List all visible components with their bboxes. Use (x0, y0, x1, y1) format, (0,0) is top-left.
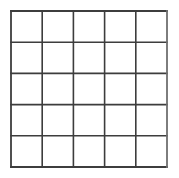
grid-cell (73, 73, 104, 104)
grid-cell (73, 136, 104, 167)
grid-cell (136, 11, 167, 42)
grid-cell (105, 73, 136, 104)
grid-cell (11, 136, 42, 167)
grid-cell (105, 42, 136, 73)
grid-cell (105, 136, 136, 167)
grid-cell (136, 105, 167, 136)
grid-cell (73, 11, 104, 42)
grid-cell (136, 136, 167, 167)
grid-cell (136, 42, 167, 73)
grid-cell (73, 42, 104, 73)
grid-cell (136, 73, 167, 104)
grid-cell (42, 105, 73, 136)
grid-cell (42, 73, 73, 104)
grid-cell (42, 136, 73, 167)
grid-cell (105, 105, 136, 136)
grid-cell (42, 42, 73, 73)
grid-cell (11, 73, 42, 104)
grid-cell (105, 11, 136, 42)
grid-cell (42, 11, 73, 42)
grid-cell (11, 11, 42, 42)
grid-cell (11, 42, 42, 73)
grid-cell (73, 105, 104, 136)
image-canvas (0, 0, 179, 178)
grid-svg (0, 0, 179, 178)
grid-cells-group (11, 11, 167, 167)
grid-cell (11, 105, 42, 136)
square-grid-figure (0, 0, 179, 178)
